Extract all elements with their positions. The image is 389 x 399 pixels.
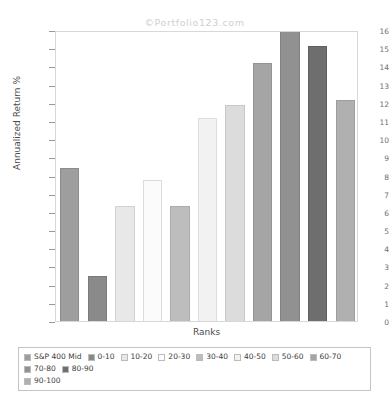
legend-swatch-icon [24, 378, 31, 385]
bar [60, 168, 79, 321]
legend-item-label: S&P 400 Mid [34, 351, 82, 363]
legend-item-label: 90-100 [34, 375, 61, 387]
legend-item[interactable]: 80-90 [62, 363, 94, 375]
legend-row-secondary: 90-100 [24, 375, 366, 387]
bar-chart: ©Portfolio123.com Annualized Return % 01… [0, 0, 389, 399]
legend-item[interactable]: 60-70 [310, 351, 342, 363]
legend-swatch-icon [121, 354, 128, 361]
bar [225, 105, 244, 321]
legend-item[interactable]: 90-100 [24, 375, 61, 387]
legend-swatch-icon [62, 366, 69, 373]
legend-item-label: 40-50 [244, 351, 266, 363]
legend-item-label: 70-80 [34, 363, 56, 375]
legend-item-label: 50-60 [282, 351, 304, 363]
legend-item-label: 30-40 [206, 351, 228, 363]
bar [170, 206, 189, 321]
legend-item[interactable]: 30-40 [196, 351, 228, 363]
bars-layer [56, 32, 357, 321]
bar [336, 100, 355, 321]
legend-swatch-icon [158, 354, 165, 361]
legend-swatch-icon [272, 354, 279, 361]
legend-item[interactable]: 50-60 [272, 351, 304, 363]
legend-item-label: 10-20 [131, 351, 153, 363]
bar [115, 206, 134, 321]
legend-item[interactable]: 0-10 [88, 351, 115, 363]
plot-area [55, 31, 358, 322]
legend-item-label: 0-10 [98, 351, 115, 363]
legend-swatch-icon [310, 354, 317, 361]
legend-swatch-icon [196, 354, 203, 361]
legend-swatch-icon [24, 354, 31, 361]
legend-swatch-icon [234, 354, 241, 361]
bar [88, 276, 107, 321]
legend-swatch-icon [88, 354, 95, 361]
legend-item[interactable]: S&P 400 Mid [24, 351, 82, 363]
chart-title: ©Portfolio123.com [0, 17, 389, 28]
y-axis-tick-mark [49, 322, 55, 323]
legend-item[interactable]: 40-50 [234, 351, 266, 363]
bar [253, 63, 272, 321]
legend-item[interactable]: 20-30 [158, 351, 190, 363]
legend-item[interactable]: 10-20 [121, 351, 153, 363]
legend-swatch-icon [24, 366, 31, 373]
legend-item-label: 80-90 [72, 363, 94, 375]
bar [280, 31, 299, 321]
chart-legend: S&P 400 Mid0-1010-2020-3030-4040-5050-60… [18, 347, 371, 391]
bar [198, 118, 217, 321]
legend-item[interactable]: 70-80 [24, 363, 56, 375]
y-axis-title: Annualized Return % [12, 43, 22, 203]
legend-row-primary: S&P 400 Mid0-1010-2020-3030-4040-5050-60… [24, 351, 366, 375]
legend-item-label: 60-70 [320, 351, 342, 363]
legend-item-label: 20-30 [168, 351, 190, 363]
x-axis-title: Ranks [55, 327, 358, 337]
bar [143, 180, 162, 321]
bar [308, 46, 327, 321]
